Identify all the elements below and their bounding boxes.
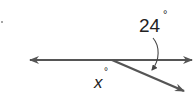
given-angle-degree: ° [163, 8, 167, 20]
unknown-angle-label: x [93, 73, 103, 92]
diagonal-ray [112, 60, 184, 91]
unknown-angle-degree: ° [104, 66, 108, 77]
angle-pointer-arrow [152, 38, 158, 70]
given-angle-label: 24 [139, 15, 161, 36]
stray-dot [1, 21, 3, 23]
angle-diagram: 24 ° x ° [0, 0, 195, 106]
